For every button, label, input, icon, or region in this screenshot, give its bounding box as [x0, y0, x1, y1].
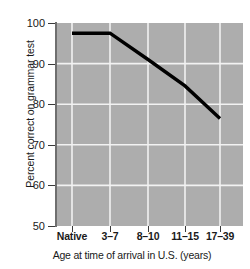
y-tick-label-70: 70 — [0, 139, 45, 151]
x-axis-title: Age at time of arrival in U.S. (years) — [20, 249, 244, 261]
data-line-series — [72, 33, 220, 118]
y-tick-mark — [48, 226, 55, 227]
y-tick-label-60: 60 — [0, 179, 45, 191]
y-tick-label-90: 90 — [0, 58, 45, 70]
y-tick-mark — [48, 185, 55, 186]
plot-area — [57, 23, 243, 226]
chart-figure: Percent correct on grammar test 100 90 8… — [0, 0, 250, 269]
y-tick-mark — [48, 23, 55, 24]
horizontal-gridlines — [57, 64, 243, 186]
vertical-gridlines — [72, 23, 220, 226]
y-tick-mark — [48, 64, 55, 65]
y-tick-mark — [48, 145, 55, 146]
y-tick-label-50: 50 — [0, 220, 45, 232]
y-tick-mark — [48, 104, 55, 105]
y-tick-label-80: 80 — [0, 98, 45, 110]
y-tick-label-100: 100 — [0, 17, 45, 29]
chart-canvas — [57, 23, 243, 226]
x-tick-label-17-39: 17–39 — [193, 230, 247, 242]
